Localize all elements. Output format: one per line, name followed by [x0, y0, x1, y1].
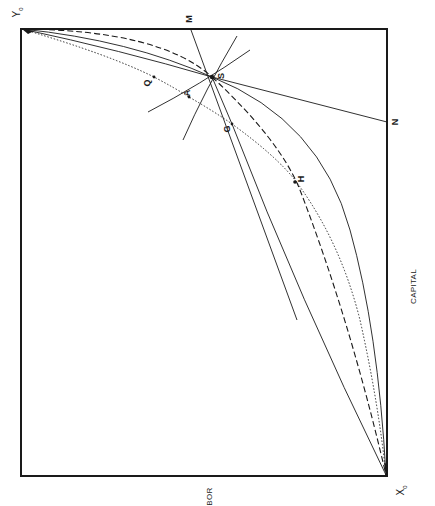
label-n: N: [390, 119, 400, 126]
corner-x-subscript: 0: [402, 485, 408, 488]
point-s-marker: [210, 75, 214, 79]
label-m: M: [184, 15, 194, 23]
corner-y-letter: Y: [11, 11, 22, 18]
label-q: Q: [142, 79, 152, 86]
corner-label-x0: X0: [395, 485, 408, 495]
solid-curve-top-a: [22, 29, 212, 77]
line-through-s-to-x0: [212, 77, 386, 475]
label-g: G: [222, 125, 232, 132]
axis-label-labor: BOR: [205, 487, 214, 505]
solid-curve-outer-bottom: [212, 77, 386, 475]
label-a: A: [182, 90, 192, 97]
corner-y-subscript: 0: [18, 7, 24, 10]
dashed-curve-top: [22, 29, 212, 77]
solid-curve-top-b: [22, 29, 212, 77]
dashed-curve-bottom: [212, 77, 386, 475]
line-s-n: [212, 77, 387, 122]
line-m-tangent: [191, 30, 297, 320]
axis-label-capital: CAPITAL: [409, 269, 418, 304]
corner-x-letter: X: [395, 489, 406, 496]
corner-label-y0: Y0: [11, 7, 24, 17]
point-q-marker: [153, 76, 156, 79]
label-h: H: [296, 176, 306, 183]
label-s: S: [216, 73, 226, 79]
